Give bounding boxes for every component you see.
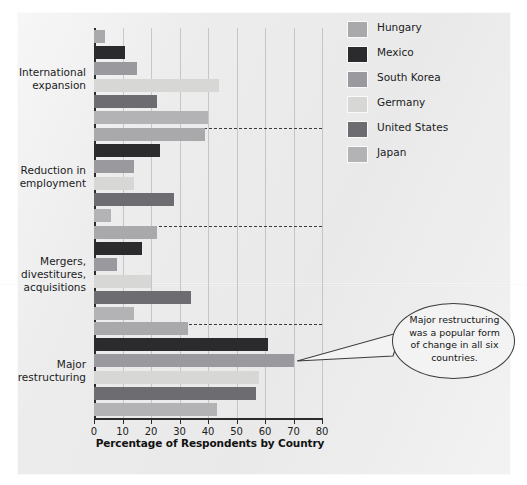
bar: [94, 128, 205, 141]
gridline-80: [322, 28, 323, 418]
legend-item-south-korea[interactable]: South Korea: [348, 70, 488, 95]
x-tick-20: [151, 418, 152, 424]
x-tick-label-10: 10: [116, 426, 129, 437]
legend: HungaryMexicoSouth KoreaGermanyUnited St…: [348, 20, 488, 170]
x-tick-60: [265, 418, 266, 424]
x-tick-40: [208, 418, 209, 424]
category-label-line: Major: [0, 358, 86, 371]
x-tick-50: [237, 418, 238, 424]
category-label-line: expansion: [0, 79, 86, 92]
legend-label: Japan: [377, 146, 406, 158]
gridline-70: [294, 28, 295, 418]
category-label-line: employment: [0, 177, 86, 190]
x-tick-30: [180, 418, 181, 424]
callout-line: Major restructuring: [400, 314, 509, 327]
x-tick-label-40: 40: [202, 426, 215, 437]
bar: [94, 209, 111, 222]
callout-bubble: Major restructuringwas a popular formof …: [392, 303, 515, 379]
callout-text: Major restructuringwas a popular formof …: [400, 314, 509, 364]
callout-line: was a popular form: [400, 327, 509, 340]
category-label-line: acquisitions: [0, 281, 86, 294]
legend-swatch-icon: [348, 147, 367, 162]
bar: [94, 291, 191, 304]
legend-swatch-icon: [348, 97, 367, 112]
bar: [94, 387, 256, 400]
legend-label: Mexico: [377, 46, 414, 58]
x-tick-0: [94, 418, 95, 424]
legend-swatch-icon: [348, 47, 367, 62]
x-tick-80: [322, 418, 323, 424]
bar: [94, 226, 157, 239]
x-tick-10: [123, 418, 124, 424]
legend-item-germany[interactable]: Germany: [348, 95, 488, 120]
category-label-line: International: [0, 66, 86, 79]
category-label: Mergers,divestitures,acquisitions: [0, 255, 86, 294]
bar: [94, 46, 125, 59]
bar: [94, 338, 268, 351]
callout-line: countries.: [400, 352, 509, 365]
legend-item-hungary[interactable]: Hungary: [348, 20, 488, 45]
legend-swatch-icon: [348, 122, 367, 137]
category-label: Internationalexpansion: [0, 66, 86, 92]
legend-label: South Korea: [377, 71, 441, 83]
x-tick-label-20: 20: [145, 426, 158, 437]
category-label: Majorrestructuring: [0, 358, 86, 384]
x-tick-label-70: 70: [287, 426, 300, 437]
legend-label: Hungary: [377, 21, 422, 33]
bar: [94, 79, 219, 92]
category-label-line: Mergers,: [0, 255, 86, 268]
category-label: Reduction inemployment: [0, 164, 86, 190]
bar: [94, 30, 105, 43]
category-label-line: Reduction in: [0, 164, 86, 177]
bar: [94, 275, 151, 288]
legend-swatch-icon: [348, 72, 367, 87]
callout-line: of change in all six: [400, 339, 509, 352]
bar: [94, 258, 117, 271]
x-tick-70: [294, 418, 295, 424]
legend-item-united-states[interactable]: United States: [348, 120, 488, 145]
x-tick-label-50: 50: [230, 426, 243, 437]
legend-item-japan[interactable]: Japan: [348, 145, 488, 170]
legend-label: Germany: [377, 96, 425, 108]
bar: [94, 177, 134, 190]
legend-item-mexico[interactable]: Mexico: [348, 45, 488, 70]
bar: [94, 371, 259, 384]
x-tick-label-60: 60: [259, 426, 272, 437]
legend-swatch-icon: [348, 22, 367, 37]
bar: [94, 193, 174, 206]
bar: [94, 144, 160, 157]
bar: [94, 62, 137, 75]
bar: [94, 95, 157, 108]
bar: [94, 354, 294, 367]
bar: [94, 307, 134, 320]
bar: [94, 322, 188, 335]
chart-page: 01020304050607080 Internationalexpansion…: [0, 0, 527, 485]
category-label-line: divestitures,: [0, 268, 86, 281]
bar: [94, 403, 217, 416]
bar: [94, 160, 134, 173]
x-axis-title: Percentage of Respondents by Country: [94, 437, 326, 449]
legend-label: United States: [377, 121, 448, 133]
x-tick-label-30: 30: [173, 426, 186, 437]
bar: [94, 111, 208, 124]
x-tick-label-80: 80: [316, 426, 329, 437]
category-label-line: restructuring: [0, 371, 86, 384]
plot-area: 01020304050607080: [94, 28, 322, 418]
bar: [94, 242, 142, 255]
x-tick-label-0: 0: [91, 426, 97, 437]
